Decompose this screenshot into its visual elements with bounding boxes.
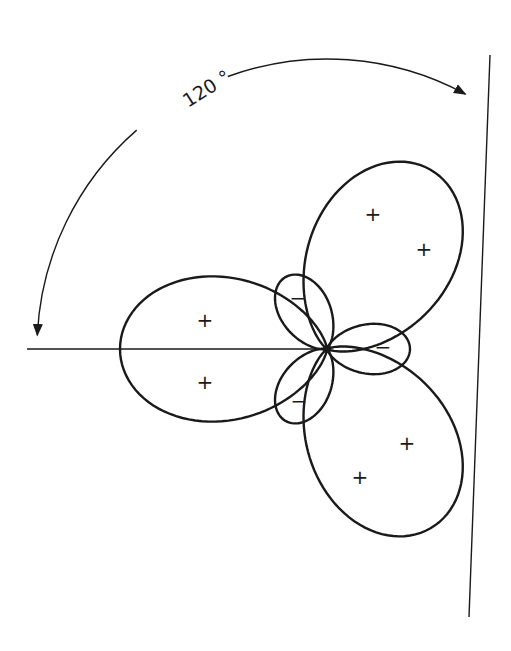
minus-sign: − [290, 286, 307, 310]
plus-sign: + [416, 237, 433, 261]
diagonal-axis-line [469, 55, 490, 617]
angle-arc-right-segment [228, 59, 466, 94]
plus-sign: + [365, 202, 382, 226]
positive-lobe-lower-right [304, 347, 463, 537]
plus-sign: + [352, 465, 369, 489]
angle-arc-left-segment [37, 130, 136, 335]
polar-lobe-diagram: 120 ° ++++++−−− [0, 0, 511, 651]
plus-sign: + [197, 308, 214, 332]
signs-group: ++++++−−− [197, 202, 433, 489]
minus-sign: − [375, 335, 392, 359]
minus-sign: − [291, 389, 308, 413]
angle-label-120-degrees: 120 ° [178, 65, 234, 111]
positive-lobe-upper-right [304, 162, 463, 352]
negative-lobe-right [327, 324, 410, 374]
origin-point [323, 345, 331, 353]
plus-sign: + [197, 370, 214, 394]
plus-sign: + [399, 431, 416, 455]
